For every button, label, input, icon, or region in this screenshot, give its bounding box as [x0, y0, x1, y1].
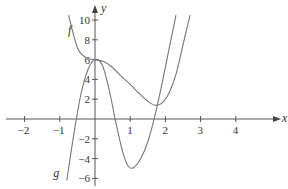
y-tick-label: −2: [78, 133, 90, 145]
y-tick-label: 10: [79, 14, 91, 26]
x-tick-label: −1: [53, 124, 65, 136]
plot-area: x y −2−11234 108642−2−4−6 f g: [0, 0, 288, 189]
curve-label-g: g: [53, 166, 59, 180]
axes: x y: [6, 1, 288, 186]
y-ticks: 108642−2−4−6: [78, 14, 98, 184]
y-axis-arrow-icon: [92, 5, 98, 13]
y-tick-label: −4: [78, 153, 90, 165]
x-tick-label: 1: [127, 124, 133, 136]
y-tick-label: 6: [85, 54, 91, 66]
y-tick-label: 8: [85, 34, 91, 46]
x-tick-label: 3: [198, 124, 204, 136]
x-tick-label: 4: [233, 124, 239, 136]
x-axis-label: x: [281, 111, 288, 125]
x-tick-label: 2: [162, 124, 168, 136]
y-tick-label: 2: [85, 93, 91, 105]
x-axis-arrow-icon: [273, 116, 281, 122]
y-tick-label: −6: [78, 172, 90, 184]
x-tick-label: −2: [18, 124, 30, 136]
y-axis-label: y: [100, 1, 107, 15]
